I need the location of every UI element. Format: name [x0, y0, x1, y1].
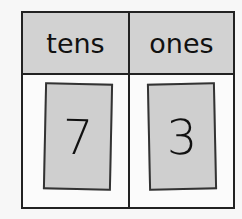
- tens-digit-card: 7: [43, 82, 113, 190]
- tens-header: tens: [23, 13, 128, 73]
- place-value-chart: tens ones 7 3: [21, 11, 235, 209]
- ones-digit-card: 3: [147, 82, 217, 190]
- column-divider: [128, 13, 130, 207]
- ones-header: ones: [130, 13, 233, 73]
